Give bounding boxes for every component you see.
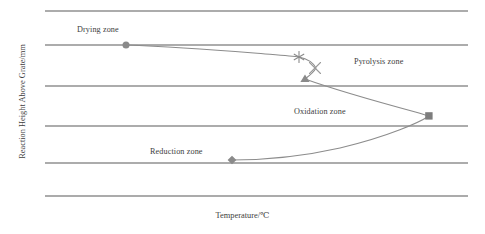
y-axis-title: Reaction Height Above Grate/mm	[18, 7, 27, 197]
pyrolysis-triangle-marker	[300, 75, 309, 83]
oxidation-zone-label: Oxidation zone	[294, 108, 346, 116]
x-axis-title: Temperature/℃	[0, 210, 485, 220]
gasifier-temperature-profile-chart: Drying zone Pyrolysis zone Oxidation zon…	[0, 0, 485, 234]
oxidation-zone-marker	[425, 112, 432, 119]
drying-zone-marker	[123, 42, 130, 49]
gridlines-group	[45, 11, 468, 196]
pyrolysis-zone-label: Pyrolysis zone	[354, 58, 403, 66]
drying-zone-label: Drying zone	[77, 26, 119, 34]
reduction-zone-label: Reduction zone	[150, 148, 203, 156]
chart-plot-area	[0, 0, 485, 234]
pyrolysis-cross-marker	[310, 63, 321, 74]
